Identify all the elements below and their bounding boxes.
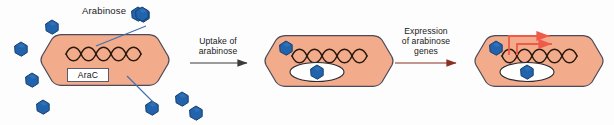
step-expression-line2: of arabinose [402, 36, 451, 46]
arabinose-molecule [46, 20, 59, 34]
arabinose-molecule [190, 106, 203, 120]
arabinose-title-label: Arabinose [82, 5, 126, 16]
diagram-canvas: Arabinose Uptake ofarabinose Expressiono… [0, 0, 614, 125]
step-uptake-line2: arabinose [199, 46, 238, 56]
arabinose-molecule [26, 73, 39, 87]
arabinose-molecule [176, 92, 189, 106]
arac-gene-label: AraC [67, 68, 109, 82]
step-expression-line3: genes [414, 46, 438, 56]
step-label-expression: Expressionof arabinosegenes [392, 26, 460, 56]
diagram-graphics [0, 0, 614, 125]
arabinose-molecule [15, 42, 28, 56]
step-label-uptake: Uptake ofarabinose [189, 36, 247, 56]
arabinose-molecule [37, 100, 50, 114]
arabinose-molecule [146, 101, 159, 115]
step-uptake-line1: Uptake of [199, 36, 237, 46]
step-expression-line1: Expression [404, 26, 448, 36]
